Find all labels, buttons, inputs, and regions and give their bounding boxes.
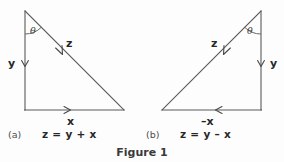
panel-a-y-label: y (8, 58, 15, 69)
figure-caption: Figure 1 (0, 147, 284, 158)
panel-b-tag: (b) (146, 130, 159, 140)
panel-a-x-label: x (67, 116, 74, 127)
panel-a-equation: z = y + x (42, 129, 97, 140)
panel-a-geometry (22, 11, 124, 113)
panel-a-hypotenuse (25, 11, 124, 110)
panel-a-tag: (a) (8, 130, 21, 140)
panel-b-theta-label: θ (247, 26, 253, 36)
figure-container: θ y z x (a) z = y + x θ y z –x (b) z = y… (0, 0, 284, 162)
panel-b-x-label: –x (201, 116, 214, 127)
panel-b-y-label: y (270, 58, 277, 69)
panel-b-equation: z = y – x (180, 129, 231, 140)
panel-b-z-label: z (211, 38, 217, 49)
panel-a-z-label: z (66, 38, 72, 49)
panel-a-theta-label: θ (30, 26, 36, 36)
